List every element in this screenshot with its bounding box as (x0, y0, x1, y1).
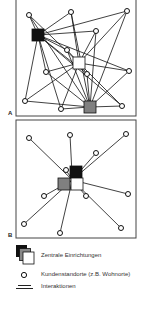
stacked-squares-icon (16, 245, 34, 264)
double-line-icon (16, 286, 33, 289)
customer-location-node (59, 107, 64, 112)
customer-location-node (23, 99, 28, 104)
legend-label-central-facilities: Zentrale Einrichtungen (41, 252, 101, 258)
central-facility-gray (84, 101, 96, 113)
customer-location-node (44, 70, 49, 75)
customer-location-node (22, 222, 27, 227)
customer-location-node (84, 194, 89, 199)
central-facility-gray (58, 178, 70, 190)
panel-b-network (16, 120, 136, 238)
customer-location-node (120, 104, 125, 109)
customer-location-node (94, 29, 99, 34)
customer-location-node (124, 132, 129, 137)
customer-location-node (94, 151, 99, 156)
central-facility-black (70, 166, 82, 178)
panel-a-network (16, 0, 136, 116)
customer-location-node (58, 231, 63, 236)
customer-location-node (27, 13, 32, 18)
customer-location-node (127, 69, 132, 74)
circle-icon (21, 272, 26, 277)
central-facility-white (71, 178, 83, 190)
diagram-canvas (0, 0, 153, 310)
customer-location-node (64, 168, 69, 173)
central-facility-white (73, 57, 85, 69)
panel-label-a: A (8, 110, 12, 116)
customer-location-node (69, 10, 74, 15)
customer-location-node (65, 48, 70, 53)
customer-location-node (27, 136, 32, 141)
central-facility-black (32, 29, 44, 41)
legend-label-interactions: Interaktionen (41, 283, 76, 289)
customer-location-node (119, 226, 124, 231)
panel-label-b: B (8, 232, 12, 238)
legend-label-customer-locations: Kundenstandorte (z.B. Wohnorte) (41, 271, 130, 277)
customer-location-node (126, 192, 131, 197)
customer-location-node (85, 72, 90, 77)
customer-location-node (68, 133, 73, 138)
customer-location-node (125, 9, 130, 14)
customer-location-node (42, 194, 47, 199)
legend-icons (16, 245, 34, 289)
